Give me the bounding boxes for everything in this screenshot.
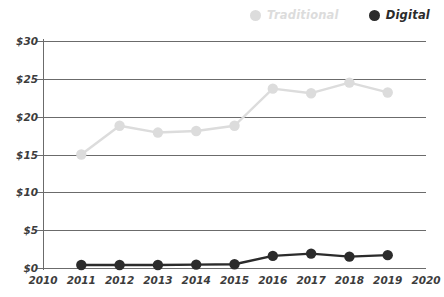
data-point[interactable] (153, 127, 163, 137)
data-point[interactable] (268, 251, 278, 261)
series-traditional (76, 77, 393, 159)
chart-container: Traditional Digital $0$5$10$15$20$25$30 … (0, 0, 444, 297)
data-point[interactable] (191, 126, 201, 136)
data-point[interactable] (229, 259, 239, 269)
data-point[interactable] (306, 88, 316, 98)
data-point[interactable] (76, 149, 86, 159)
series-plot-layer (0, 0, 444, 297)
data-point[interactable] (306, 248, 316, 258)
data-point[interactable] (383, 87, 393, 97)
data-point[interactable] (114, 121, 124, 131)
series-digital (76, 248, 393, 270)
data-point[interactable] (191, 259, 201, 269)
data-point[interactable] (114, 260, 124, 270)
data-point[interactable] (344, 251, 354, 261)
data-point[interactable] (268, 83, 278, 93)
data-point[interactable] (229, 121, 239, 131)
data-point[interactable] (344, 77, 354, 87)
data-point[interactable] (153, 260, 163, 270)
data-point[interactable] (383, 250, 393, 260)
data-point[interactable] (76, 260, 86, 270)
series-line (81, 83, 387, 155)
